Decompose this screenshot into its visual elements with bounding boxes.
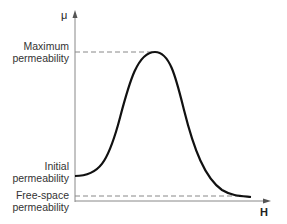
y-axis-arrow-icon	[73, 10, 78, 18]
max-permeability-label: Maximum permeability	[12, 40, 69, 64]
x-axis-label: H	[260, 206, 268, 218]
x-axis-arrow-icon	[263, 199, 271, 204]
initial-permeability-label: Initial permeability	[12, 160, 69, 184]
free-space-permeability-label: Free-space permeability	[12, 189, 69, 213]
y-axis-label: μ	[61, 9, 67, 21]
permeability-curve	[75, 52, 251, 197]
